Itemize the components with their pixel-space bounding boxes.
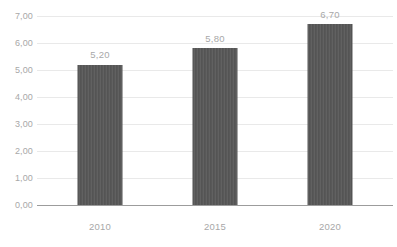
bar[interactable] [78, 65, 123, 205]
x-axis-tick-label: 2010 [45, 222, 155, 232]
y-axis-tick-label: 7,00 [0, 12, 33, 21]
x-axis-tick-label: 2015 [160, 222, 270, 232]
bar-value-label: 5,80 [205, 34, 224, 44]
y-axis-tick-label: 2,00 [0, 147, 33, 156]
bar[interactable] [193, 48, 238, 205]
y-axis-tick-label: 5,00 [0, 66, 33, 75]
y-axis: 7,00 6,00 5,00 4,00 3,00 2,00 1,00 0,00 [0, 16, 33, 205]
bar-group: 6,70 [275, 16, 385, 205]
y-axis-tick-label: 3,00 [0, 120, 33, 129]
y-axis-tick-label: 6,00 [0, 39, 33, 48]
bars-layer: 5,20 5,80 6,70 [37, 16, 393, 205]
bar-group: 5,80 [160, 16, 270, 205]
bar-chart: 7,00 6,00 5,00 4,00 3,00 2,00 1,00 0,00 … [0, 0, 397, 247]
y-axis-tick-label: 0,00 [0, 201, 33, 210]
bar[interactable] [308, 24, 353, 205]
bar-value-label: 5,20 [90, 50, 109, 60]
x-axis-tick-label: 2020 [275, 222, 385, 232]
y-axis-tick-label: 4,00 [0, 93, 33, 102]
x-axis: 2010 2015 2020 [37, 222, 393, 236]
bar-value-label: 6,70 [320, 10, 339, 20]
bar-group: 5,20 [45, 16, 155, 205]
y-axis-tick-label: 1,00 [0, 174, 33, 183]
x-axis-line [37, 205, 393, 206]
